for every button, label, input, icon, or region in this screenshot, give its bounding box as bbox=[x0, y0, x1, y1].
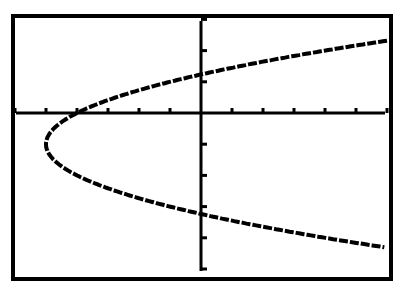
parabola-curve bbox=[46, 41, 387, 248]
graph-plot bbox=[0, 0, 403, 296]
calculator-graph-screen bbox=[0, 0, 403, 296]
